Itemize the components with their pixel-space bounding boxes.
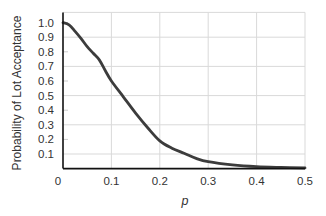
y-tick-labels: 0.10.20.30.40.50.60.70.80.91.0: [38, 17, 55, 160]
y-tick-label: 0.2: [38, 133, 54, 145]
x-tick-label: 0.2: [152, 175, 168, 187]
x-tick-labels: 00.10.20.30.40.5: [55, 175, 313, 187]
x-axis-title: p: [181, 194, 189, 208]
gridlines: [63, 12, 305, 168]
x-tick-label: 0.3: [200, 175, 216, 187]
y-tick-label: 0.1: [38, 148, 54, 160]
y-tick-label: 0.3: [38, 119, 54, 131]
y-tick-label: 0.5: [38, 90, 54, 102]
y-tick-label: 1.0: [38, 17, 54, 29]
y-axis-title: Probability of Lot Acceptance: [10, 15, 24, 170]
x-tick-label: 0.5: [297, 175, 313, 187]
y-tick-label: 0.9: [38, 31, 54, 43]
y-tick-label: 0.4: [38, 104, 55, 116]
x-tick-label: 0.1: [103, 175, 119, 187]
y-tick-label: 0.6: [38, 75, 54, 87]
x-tick-label: 0: [55, 175, 61, 187]
y-tick-label: 0.7: [38, 60, 54, 72]
y-tick-label: 0.8: [38, 46, 54, 58]
x-tick-label: 0.4: [249, 175, 266, 187]
oc-chart: 0.10.20.30.40.50.60.70.80.91.0 00.10.20.…: [0, 0, 326, 216]
